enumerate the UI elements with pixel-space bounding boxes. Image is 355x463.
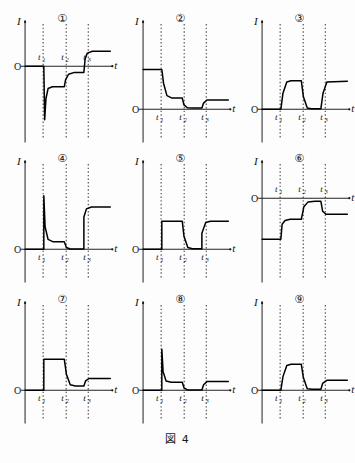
y-axis-label: I [253, 155, 259, 167]
y-axis-arrow-dot [142, 302, 144, 304]
tick-sub-t3: 3 [205, 258, 209, 264]
x-axis-arrow-dot [230, 389, 232, 391]
x-axis-arrow-dot [111, 65, 113, 67]
tick-label-t1: t [38, 52, 41, 62]
y-axis-label: I [16, 155, 22, 167]
tick-label-t3: t [320, 393, 323, 403]
figure-container: I t O t 1 t 2 t 3 ① [0, 0, 355, 463]
data-curve-3 [262, 81, 347, 110]
tick-label-t3: t [202, 112, 205, 122]
tick-sub-t3: 3 [87, 398, 91, 404]
y-axis-arrow-dot [261, 21, 263, 23]
chart-panel-6: I t O t 1 t 2 t 3 ⑥ [237, 146, 355, 286]
origin-label: O [14, 245, 21, 256]
tick-sub-t3: 3 [205, 117, 209, 123]
tick-label-t2: t [298, 393, 301, 403]
y-axis-label: I [134, 15, 140, 27]
panel-number-4: ④ [57, 152, 67, 165]
y-axis-arrow-dot [261, 302, 263, 304]
tick-label-t2: t [298, 112, 301, 122]
tick-sub-t3: 3 [87, 57, 91, 63]
tick-sub-t3: 3 [323, 398, 327, 404]
origin-label: O [14, 385, 21, 396]
tick-label-t1: t [275, 112, 278, 122]
origin-label: O [132, 245, 139, 256]
panel-grid: I t O t 1 t 2 t 3 ① [0, 6, 355, 426]
tick-label-t1: t [156, 253, 159, 263]
chart-svg-5: I t O t 1 t 2 t 3 ⑤ [118, 146, 236, 286]
chart-panel-5: I t O t 1 t 2 t 3 ⑤ [118, 146, 236, 286]
tick-sub-t1: 1 [279, 190, 282, 196]
x-axis-label: t [351, 192, 355, 204]
panel-number-3: ③ [294, 12, 304, 25]
chart-panel-1: I t O t 1 t 2 t 3 ① [0, 6, 118, 146]
tick-sub-t2: 2 [184, 258, 187, 264]
data-curve-5 [143, 222, 228, 250]
tick-sub-t2: 2 [184, 117, 187, 123]
y-axis-arrow-dot [24, 161, 26, 163]
y-axis-arrow-dot [142, 21, 144, 23]
tick-sub-t2: 2 [302, 398, 305, 404]
tick-sub-t3: 3 [323, 190, 327, 196]
data-curve-8 [143, 349, 228, 390]
tick-sub-t2: 2 [302, 190, 305, 196]
x-axis-arrow-dot [111, 249, 113, 251]
chart-svg-6: I t O t 1 t 2 t 3 ⑥ [237, 146, 355, 286]
tick-label-t1: t [275, 393, 278, 403]
tick-label-t2: t [179, 393, 182, 403]
y-axis-label: I [253, 15, 259, 27]
chart-svg-4: I t O t 1 t 2 t 3 ④ [0, 146, 118, 286]
x-axis-arrow-dot [348, 108, 350, 110]
tick-sub-t1: 1 [279, 117, 282, 123]
y-axis-arrow-dot [142, 161, 144, 163]
chart-svg-7: I t O t 1 t 2 t 3 ⑦ [0, 287, 118, 427]
panel-number-9: ⑨ [294, 293, 304, 306]
tick-label-t1: t [156, 112, 159, 122]
chart-svg-2: I t O t 1 t 2 t 3 ② [118, 6, 236, 146]
origin-label: O [132, 385, 139, 396]
y-axis-label: I [16, 296, 22, 308]
panel-number-2: ② [175, 12, 185, 25]
chart-panel-3: I t O t 1 t 2 t 3 ③ [237, 6, 355, 146]
tick-label-t3: t [320, 185, 323, 195]
x-axis-arrow-dot [230, 108, 232, 110]
tick-label-t3: t [83, 253, 86, 263]
x-axis-arrow-dot [348, 197, 350, 199]
panel-number-6: ⑥ [294, 152, 304, 165]
tick-sub-t2: 2 [184, 398, 187, 404]
tick-sub-t2: 2 [66, 258, 69, 264]
tick-sub-t2: 2 [66, 398, 69, 404]
data-curve-4 [25, 196, 110, 249]
tick-sub-t1: 1 [161, 117, 164, 123]
origin-label: O [251, 385, 258, 396]
chart-svg-8: I t O t 1 t 2 t 3 ⑧ [118, 287, 236, 427]
y-axis-label: I [134, 155, 140, 167]
figure-caption: 図 4 [0, 430, 355, 446]
chart-svg-3: I t O t 1 t 2 t 3 ③ [237, 6, 355, 146]
origin-label: O [14, 61, 21, 72]
tick-label-t2: t [179, 112, 182, 122]
tick-label-t3: t [83, 393, 86, 403]
y-axis-label: I [253, 296, 259, 308]
chart-panel-9: I t O t 1 t 2 t 3 ⑨ [237, 287, 355, 427]
tick-label-t1: t [156, 393, 159, 403]
chart-panel-2: I t O t 1 t 2 t 3 ② [118, 6, 236, 146]
origin-label: O [132, 104, 139, 115]
tick-sub-t1: 1 [161, 258, 164, 264]
chart-svg-1: I t O t 1 t 2 t 3 ① [0, 6, 118, 146]
tick-label-t1: t [38, 393, 41, 403]
y-axis-label: I [134, 296, 140, 308]
y-axis-arrow-dot [24, 302, 26, 304]
panel-number-5: ⑤ [175, 152, 185, 165]
tick-sub-t2: 2 [66, 57, 69, 63]
tick-sub-t2: 2 [302, 117, 305, 123]
chart-svg-9: I t O t 1 t 2 t 3 ⑨ [237, 287, 355, 427]
origin-label: O [251, 104, 258, 115]
data-curve-6 [262, 202, 347, 240]
chart-panel-8: I t O t 1 t 2 t 3 ⑧ [118, 287, 236, 427]
tick-label-t3: t [320, 112, 323, 122]
tick-label-t2: t [61, 253, 64, 263]
tick-label-t1: t [38, 253, 41, 263]
tick-label-t1: t [275, 185, 278, 195]
tick-sub-t3: 3 [87, 258, 91, 264]
